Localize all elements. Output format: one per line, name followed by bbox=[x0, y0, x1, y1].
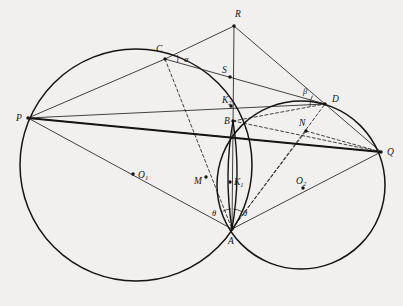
label-angle-theta-l: θ bbox=[212, 208, 216, 218]
label-angle-alpha: α bbox=[184, 54, 189, 64]
point-p bbox=[26, 116, 29, 119]
point-c bbox=[163, 57, 166, 60]
label-s: S bbox=[222, 65, 227, 75]
label-d: D bbox=[331, 94, 339, 104]
label-b: B bbox=[224, 116, 230, 126]
point-q bbox=[379, 150, 382, 153]
diagram-canvas: PCRSK2BDNQO1MK1O2Aαβθθ bbox=[0, 0, 403, 306]
point-n bbox=[304, 129, 307, 132]
label-angle-theta-r: θ bbox=[243, 208, 247, 218]
label-q: Q bbox=[387, 147, 394, 157]
point-s bbox=[228, 75, 231, 78]
geometry-figure: PCRSK2BDNQO1MK1O2Aαβθθ bbox=[0, 0, 403, 306]
label-m: M bbox=[193, 176, 203, 186]
label-p: P bbox=[15, 113, 22, 123]
point-m bbox=[204, 175, 207, 178]
point-a bbox=[230, 227, 233, 230]
point-o1 bbox=[131, 172, 134, 175]
label-n: N bbox=[298, 118, 306, 128]
point-d bbox=[323, 102, 326, 105]
point-k1 bbox=[228, 180, 231, 183]
label-c: C bbox=[156, 44, 163, 54]
point-r bbox=[232, 24, 235, 27]
point-b bbox=[231, 119, 234, 122]
label-r: R bbox=[234, 9, 241, 19]
label-angle-beta: β bbox=[302, 86, 308, 96]
label-a: A bbox=[227, 236, 234, 246]
